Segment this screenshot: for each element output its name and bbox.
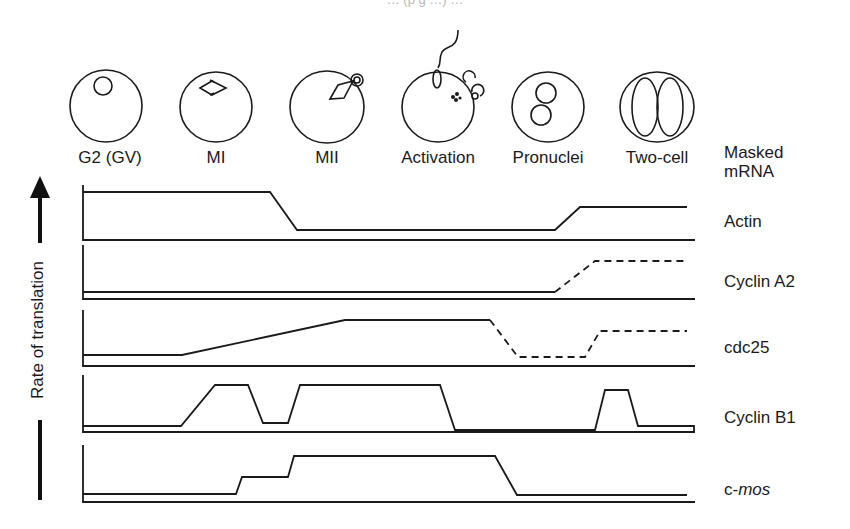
- panel-cdc25: [83, 310, 695, 366]
- stage-label-pronuclei: Pronuclei: [488, 148, 608, 168]
- panel-axis: [83, 245, 695, 299]
- trace-dashed: [555, 261, 687, 292]
- mi-oocyte-icon: [180, 72, 252, 142]
- trace-dashed: [490, 320, 687, 357]
- panel-cyclin-a2: [83, 245, 695, 299]
- panel-axis: [83, 375, 695, 432]
- trace-solid: [83, 320, 490, 355]
- stage-label-activation: Activation: [378, 148, 498, 168]
- activation-granules-icon: [451, 92, 462, 102]
- header-line-1: Masked: [724, 143, 784, 162]
- trace-solid: [83, 192, 687, 230]
- header-line-2: mRNA: [724, 162, 784, 181]
- pronuclei-zygote-icon: [512, 72, 584, 142]
- stage-label-two-cell: Two-cell: [597, 148, 717, 168]
- activation-egg-icon: [402, 71, 484, 142]
- mii-oocyte-icon: [290, 71, 364, 143]
- trace-solid: [83, 456, 687, 495]
- row-label-cyclin-b1: Cyclin B1: [724, 408, 796, 428]
- diagram-canvas: [0, 0, 850, 529]
- arrow-head-icon: [30, 176, 50, 198]
- masked-mrna-header: Masked mRNA: [724, 143, 784, 181]
- y-axis-label: Rate of translation: [28, 261, 48, 399]
- row-label-cdc25: cdc25: [724, 338, 769, 358]
- two-cell-embryo-icon: [620, 72, 694, 142]
- row-label-actin: Actin: [724, 212, 762, 232]
- stage-label-mii: MII: [267, 148, 387, 168]
- trace-solid: [83, 385, 694, 432]
- stage-label-g2: G2 (GV): [50, 148, 170, 168]
- panel-axis: [83, 185, 695, 240]
- translation-diagram: … (p g …) …: [0, 0, 850, 529]
- row-label-c-mos: c-mos: [724, 480, 770, 500]
- sperm-flagellum-icon: [438, 30, 458, 68]
- g2-oocyte-icon: [70, 70, 142, 142]
- panel-cyclin-b1: [83, 375, 695, 432]
- row-label-cyclin-a2: Cyclin A2: [724, 272, 795, 292]
- stage-label-mi: MI: [156, 148, 276, 168]
- panel-axis: [83, 310, 695, 366]
- panel-c-mos: [83, 445, 695, 502]
- panel-actin: [83, 185, 695, 240]
